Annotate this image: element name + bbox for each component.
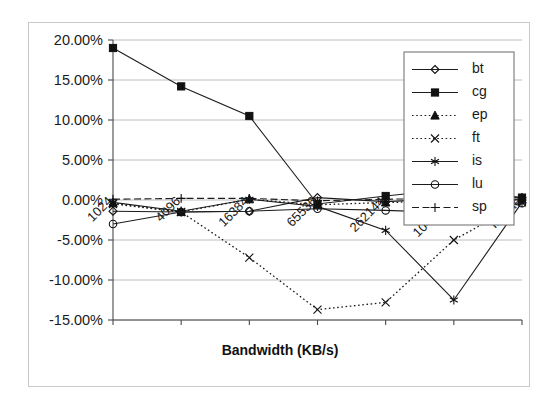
legend-label-lu: lu <box>472 175 483 191</box>
y-axis-tick-labels: 20.00%15.00%10.00%5.00%0.00%-5.00%-10.00… <box>49 32 103 328</box>
legend-label-cg: cg <box>472 83 487 99</box>
y-tick-label: -10.00% <box>49 272 103 288</box>
chart-legend: btcgepftislusp <box>404 52 514 225</box>
legend-marker-cg <box>431 89 438 96</box>
legend-label-is: is <box>472 152 482 168</box>
data-point-ft <box>314 306 322 314</box>
legend-label-sp: sp <box>472 198 487 214</box>
data-point-ft <box>245 254 253 262</box>
legend-label-bt: bt <box>472 60 484 76</box>
y-tick-label: -5.00% <box>57 232 103 248</box>
chart-container: 20.00%15.00%10.00%5.00%0.00%-5.00%-10.00… <box>0 0 557 410</box>
data-point-cg <box>109 44 116 51</box>
x-tick-label: 65536 <box>283 194 319 230</box>
legend-label-ft: ft <box>472 129 480 145</box>
y-tick-label: -15.00% <box>49 312 103 328</box>
y-tick-label: 20.00% <box>54 32 103 48</box>
legend-label-ep: ep <box>472 106 488 122</box>
line-chart-plot: 20.00%15.00%10.00%5.00%0.00%-5.00%-10.00… <box>0 0 557 410</box>
x-axis-title: Bandwidth (KB/s) <box>222 342 339 358</box>
y-tick-label: 5.00% <box>62 152 103 168</box>
data-point-cg <box>178 83 185 90</box>
y-tick-label: 15.00% <box>54 72 103 88</box>
data-point-cg <box>246 112 253 119</box>
data-point-ft <box>382 298 390 306</box>
y-tick-label: 10.00% <box>54 112 103 128</box>
